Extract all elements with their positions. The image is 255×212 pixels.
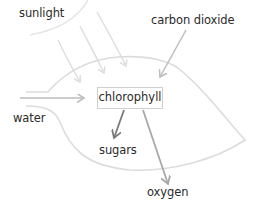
carbon-dioxide-arrow	[160, 30, 186, 77]
chlorophyll-box: chlorophyll	[97, 87, 163, 109]
oxygen-label: oxygen	[147, 187, 188, 199]
sunlight-label: sunlight	[19, 8, 64, 20]
oxygen-arrow	[143, 110, 168, 184]
carbon-dioxide-label: carbon dioxide	[151, 15, 235, 27]
sunlight-arrow-1	[58, 40, 80, 82]
sugars-arrow	[114, 110, 124, 138]
sugars-label: sugars	[99, 145, 137, 157]
water-label: water	[13, 113, 45, 125]
